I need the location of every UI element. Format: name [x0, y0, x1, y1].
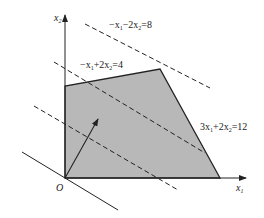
- constraint-label-2: −x1+2x2=4: [80, 60, 123, 73]
- feasible-region: [65, 69, 220, 178]
- constraint-label-1: −x1−2x2=8: [109, 20, 152, 33]
- linear-programming-diagram: x2 x1 O −x1−2x2=8 −x1+2x2=4 3x1+2x2=12: [0, 0, 264, 218]
- constraint-label-3: 3x1+2x2=12: [200, 122, 247, 135]
- origin-label: O: [56, 183, 63, 193]
- x1-axis-label: x1: [236, 183, 243, 196]
- x2-axis-label: x2: [54, 13, 61, 26]
